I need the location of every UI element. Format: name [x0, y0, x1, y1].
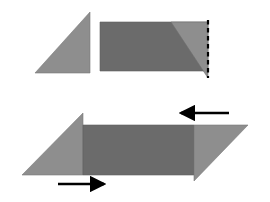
- figure-root: Paper folding diagram: [0, 0, 270, 202]
- folding-diagram-svg: [0, 0, 270, 202]
- center-rectangle: [83, 125, 194, 175]
